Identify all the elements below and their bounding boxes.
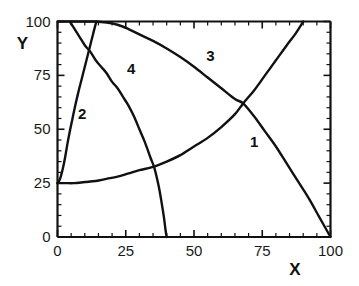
x-tick-label-75: 75 [254, 242, 271, 259]
y-tick-label-50: 50 [34, 120, 51, 137]
y-tick-label-25: 25 [34, 174, 51, 191]
y-tick-label-0: 0 [42, 228, 50, 245]
y-axis-label: Y [17, 34, 29, 53]
x-tick-label-100: 100 [318, 242, 343, 259]
chart-figure: 1234 02550751000255075100 X Y [0, 0, 359, 286]
curve-label-3: 3 [206, 47, 214, 64]
x-tick-label-50: 50 [186, 242, 203, 259]
y-tick-label-75: 75 [34, 66, 51, 83]
x-tick-label-25: 25 [117, 242, 134, 259]
curve-label-4: 4 [127, 60, 136, 77]
x-axis-label: X [289, 260, 301, 279]
curve-label-1: 1 [250, 133, 258, 150]
curve-label-2: 2 [78, 105, 86, 122]
x-tick-label-0: 0 [53, 242, 61, 259]
y-tick-label-100: 100 [25, 13, 50, 30]
